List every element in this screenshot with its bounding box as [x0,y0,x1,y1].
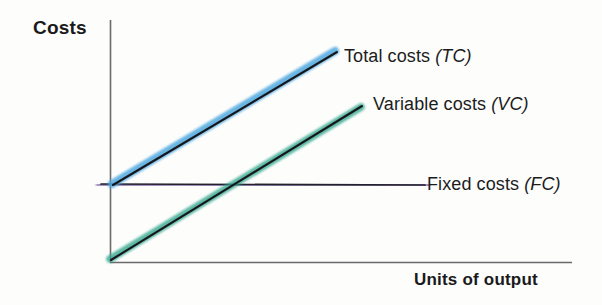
series-label-variable-costs: Variable costs (VC) [373,94,529,115]
series-label-variable-costs-text: Variable costs [373,94,491,114]
series-label-fixed-costs-abbr: (FC) [524,174,560,194]
series-label-variable-costs-abbr: (VC) [491,94,528,114]
x-axis-title: Units of output [414,270,538,290]
series-label-total-costs: Total costs (TC) [344,46,472,67]
series-label-total-costs-text: Total costs [344,46,435,66]
fixed-costs-line [101,184,425,185]
total-costs-highlight [112,51,335,184]
chart-canvas [0,0,602,305]
series-label-total-costs-abbr: (TC) [435,46,471,66]
series-total-costs [112,51,337,185]
series-label-fixed-costs: Fixed costs (FC) [427,174,561,195]
y-axis-title: Costs [33,17,87,39]
series-label-fixed-costs-text: Fixed costs [427,174,524,194]
series-fixed-costs [99,184,427,185]
chart-figure: Costs Units of output Total costs (TC) V… [0,0,602,305]
total-costs-line [113,52,337,185]
